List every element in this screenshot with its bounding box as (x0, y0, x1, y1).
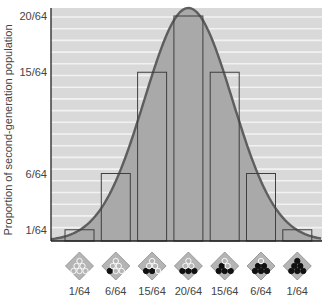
category-label: 20/64 (175, 285, 203, 297)
y-axis-title: Proportion of second-generation populati… (2, 25, 14, 236)
light-allele-dot (74, 263, 79, 268)
dark-allele-dot (192, 268, 197, 273)
dark-allele-dot (292, 263, 297, 268)
bell-curve-chart: 1/646/6415/6420/64 Proportion of second-… (0, 0, 322, 299)
dark-allele-dot (228, 268, 233, 273)
light-allele-dot (77, 268, 82, 273)
light-allele-dot (110, 263, 115, 268)
genotype-diamond-icon (66, 252, 94, 280)
genotype-diamond-icon (247, 252, 275, 280)
genotype-icons (66, 252, 312, 280)
category-labels: 1/646/6415/6420/6415/646/641/64 (69, 285, 308, 297)
light-allele-dot (186, 258, 191, 263)
light-allele-dot (183, 263, 188, 268)
dark-allele-dot (216, 268, 221, 273)
light-allele-dot (119, 268, 124, 273)
light-allele-dot (116, 263, 121, 268)
dark-allele-dot (301, 268, 306, 273)
category-label: 6/64 (250, 285, 271, 297)
light-allele-dot (113, 258, 118, 263)
dark-allele-dot (264, 268, 269, 273)
y-tick-label: 20/64 (19, 10, 47, 22)
dark-allele-dot (149, 268, 154, 273)
dark-allele-dot (186, 268, 191, 273)
dark-allele-dot (289, 268, 294, 273)
dark-allele-dot (295, 258, 300, 263)
y-tick-labels: 1/646/6415/6420/64 (19, 10, 47, 236)
category-label: 6/64 (105, 285, 126, 297)
light-allele-dot (146, 263, 151, 268)
dark-allele-dot (143, 268, 148, 273)
light-allele-dot (113, 268, 118, 273)
light-allele-dot (225, 263, 230, 268)
dark-allele-dot (180, 268, 185, 273)
dark-allele-dot (261, 263, 266, 268)
genotype-diamond-icon (283, 252, 311, 280)
dark-allele-dot (295, 268, 300, 273)
genotype-diamond-icon (102, 252, 130, 280)
category-label: 15/64 (138, 285, 166, 297)
dark-allele-dot (258, 268, 263, 273)
dark-allele-dot (219, 263, 224, 268)
light-allele-dot (222, 258, 227, 263)
genotype-diamond-icon (211, 252, 239, 280)
light-allele-dot (149, 258, 154, 263)
light-allele-dot (77, 258, 82, 263)
dark-allele-dot (252, 268, 257, 273)
category-label: 15/64 (211, 285, 239, 297)
light-allele-dot (155, 268, 160, 273)
dark-allele-dot (298, 263, 303, 268)
light-allele-dot (80, 263, 85, 268)
y-tick-label: 6/64 (26, 168, 47, 180)
light-allele-dot (258, 258, 263, 263)
light-allele-dot (83, 268, 88, 273)
dark-allele-dot (255, 263, 260, 268)
light-allele-dot (152, 263, 157, 268)
light-allele-dot (189, 263, 194, 268)
genotype-diamond-icon (138, 252, 166, 280)
dark-allele-dot (107, 268, 112, 273)
y-tick-label: 1/64 (26, 224, 47, 236)
genotype-diamond-icon (174, 252, 202, 280)
category-label: 1/64 (287, 285, 308, 297)
light-allele-dot (71, 268, 76, 273)
dark-allele-dot (222, 268, 227, 273)
category-label: 1/64 (69, 285, 90, 297)
y-tick-label: 15/64 (19, 66, 47, 78)
